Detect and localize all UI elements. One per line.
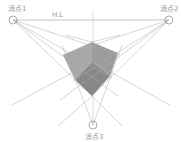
perspective-diagram: 消点1 消点2 消点3 H.L: [0, 0, 181, 142]
vanishing-point-3-label: 消点3: [85, 132, 103, 141]
diagram-canvas: 消点1 消点2 消点3 H.L: [0, 0, 181, 142]
vanishing-point-1-label: 消点1: [8, 4, 26, 13]
horizon-line-label: H.L: [52, 11, 63, 19]
vanishing-point-2-label: 消点2: [160, 4, 178, 13]
